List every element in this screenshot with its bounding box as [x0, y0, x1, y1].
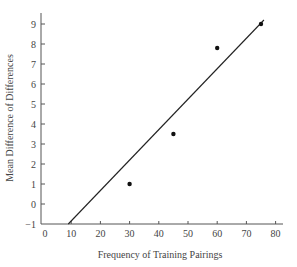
data-point [127, 182, 131, 186]
y-tick-label: 3 [31, 139, 36, 150]
y-tick-label: 5 [31, 99, 36, 110]
axes: −1012345678901020304050607080 [25, 13, 283, 239]
y-tick-label: 2 [31, 159, 36, 170]
y-tick-label: 9 [31, 19, 36, 30]
y-tick-label: 1 [31, 179, 36, 190]
x-tick-label: 80 [271, 228, 281, 239]
scatter-chart: −1012345678901020304050607080 Frequency … [0, 0, 297, 267]
regression-line [68, 20, 264, 224]
y-tick-label: −1 [25, 219, 36, 230]
y-tick-label: 4 [31, 119, 36, 130]
y-tick-label: 6 [31, 79, 36, 90]
x-tick-label: 70 [241, 228, 251, 239]
y-tick-label: 8 [31, 39, 36, 50]
data-point [259, 22, 263, 26]
x-axis-label: Frequency of Training Pairings [98, 249, 223, 260]
x-tick-label: 60 [212, 228, 222, 239]
y-tick-label: 7 [31, 59, 36, 70]
x-tick-label: 10 [66, 228, 76, 239]
x-tick-label: 50 [183, 228, 193, 239]
y-axis-label: Mean Difference of Differences [4, 54, 15, 182]
x-tick-label: 0 [43, 228, 48, 239]
x-tick-label: 20 [95, 228, 105, 239]
fitted-line [68, 20, 264, 224]
x-tick-label: 30 [125, 228, 135, 239]
data-point [171, 132, 175, 136]
data-point [215, 46, 219, 50]
y-tick-label: 0 [31, 199, 36, 210]
data-points [127, 22, 263, 186]
x-tick-label: 40 [154, 228, 164, 239]
